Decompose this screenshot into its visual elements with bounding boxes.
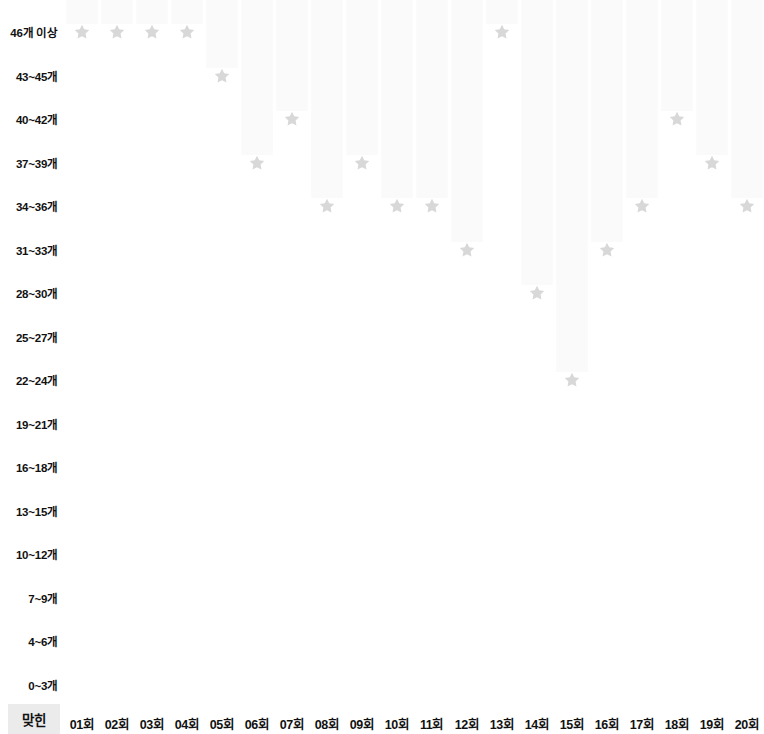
y-axis-tick: 22~24개 <box>0 372 58 388</box>
y-axis-tick: 31~33개 <box>0 242 58 258</box>
star-marker[interactable] <box>738 197 756 215</box>
star-marker[interactable] <box>108 23 126 41</box>
y-axis-tick: 7~9개 <box>0 590 58 606</box>
star-marker[interactable] <box>353 154 371 172</box>
x-axis-tick: 10회 <box>380 714 414 733</box>
bar-segment <box>626 0 658 198</box>
star-marker[interactable] <box>668 110 686 128</box>
star-marker[interactable] <box>213 67 231 85</box>
y-axis-tick: 46개 이상 <box>0 24 58 40</box>
star-marker[interactable] <box>458 241 476 259</box>
bar-segment <box>346 0 378 155</box>
bar-segment <box>381 0 413 198</box>
x-axis-tick: 11회 <box>415 714 449 733</box>
star-marker[interactable] <box>703 154 721 172</box>
x-axis-tick: 04회 <box>170 714 204 733</box>
x-axis-corner-label: 맞힌 <box>8 704 60 734</box>
bar-segment <box>136 0 168 24</box>
star-marker[interactable] <box>388 197 406 215</box>
y-axis-tick: 37~39개 <box>0 155 58 171</box>
star-marker[interactable] <box>528 284 546 302</box>
star-marker[interactable] <box>598 241 616 259</box>
bar-segment <box>206 0 238 68</box>
bar-segment <box>241 0 273 155</box>
plot-area <box>64 0 760 702</box>
bar-segment <box>521 0 553 285</box>
star-marker[interactable] <box>563 371 581 389</box>
y-axis-tick: 34~36개 <box>0 198 58 214</box>
star-marker[interactable] <box>493 23 511 41</box>
star-marker[interactable] <box>283 110 301 128</box>
x-axis-tick: 14회 <box>520 714 554 733</box>
bar-segment <box>451 0 483 242</box>
y-axis-tick: 19~21개 <box>0 416 58 432</box>
bar-segment <box>556 0 588 372</box>
bar-segment <box>591 0 623 242</box>
star-marker[interactable] <box>423 197 441 215</box>
x-axis-tick: 13회 <box>485 714 519 733</box>
bar-segment <box>171 0 203 24</box>
x-axis-tick: 07회 <box>275 714 309 733</box>
bar-segment <box>276 0 308 111</box>
x-axis-tick: 19회 <box>695 714 729 733</box>
x-axis-tick: 16회 <box>590 714 624 733</box>
bar-segment <box>311 0 343 198</box>
y-axis-tick: 40~42개 <box>0 111 58 127</box>
bar-segment <box>486 0 518 24</box>
x-axis-tick: 05회 <box>205 714 239 733</box>
star-marker[interactable] <box>248 154 266 172</box>
x-axis-tick: 01회 <box>65 714 99 733</box>
x-axis-tick: 15회 <box>555 714 589 733</box>
y-axis: 46개 이상43~45개40~42개37~39개34~36개31~33개28~3… <box>0 0 64 702</box>
bar-segment <box>661 0 693 111</box>
x-axis-tick: 17회 <box>625 714 659 733</box>
x-axis-tick: 03회 <box>135 714 169 733</box>
y-axis-tick: 13~15개 <box>0 503 58 519</box>
star-marker[interactable] <box>633 197 651 215</box>
x-axis-tick: 18회 <box>660 714 694 733</box>
star-marker[interactable] <box>318 197 336 215</box>
star-marker[interactable] <box>143 23 161 41</box>
bar-segment <box>416 0 448 198</box>
x-axis: 맞힌 01회02회03회04회05회06회07회08회09회10회11회12회1… <box>0 702 760 732</box>
y-axis-tick: 10~12개 <box>0 546 58 562</box>
star-marker[interactable] <box>73 23 91 41</box>
bar-segment <box>66 0 98 24</box>
y-axis-tick: 43~45개 <box>0 68 58 84</box>
bar-segment <box>731 0 763 198</box>
x-axis-tick: 02회 <box>100 714 134 733</box>
y-axis-tick: 0~3개 <box>0 677 58 693</box>
bar-segment <box>696 0 728 155</box>
x-axis-tick: 06회 <box>240 714 274 733</box>
y-axis-tick: 4~6개 <box>0 633 58 649</box>
bar-segment <box>101 0 133 24</box>
y-axis-tick: 25~27개 <box>0 329 58 345</box>
x-axis-tick: 20회 <box>730 714 764 733</box>
x-axis-tick: 09회 <box>345 714 379 733</box>
x-axis-tick: 12회 <box>450 714 484 733</box>
star-marker[interactable] <box>178 23 196 41</box>
y-axis-tick: 28~30개 <box>0 285 58 301</box>
y-axis-tick: 16~18개 <box>0 459 58 475</box>
x-axis-tick: 08회 <box>310 714 344 733</box>
